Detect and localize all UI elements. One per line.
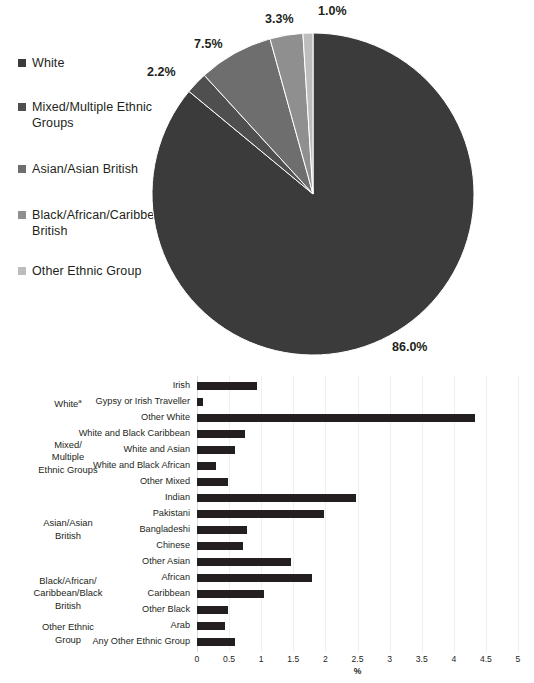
- legend-swatch-asian: [18, 165, 26, 173]
- x-tick-label: 0.5: [223, 654, 235, 664]
- pie-graphic: [152, 33, 474, 355]
- legend-item-white: White: [18, 55, 153, 71]
- x-tick-label: 0: [195, 654, 200, 664]
- bar-fill: [197, 510, 324, 518]
- bar-category-label: Indian: [4, 490, 196, 505]
- legend-label-other: Other Ethnic Group: [32, 263, 142, 279]
- bar-fill: [197, 382, 257, 390]
- legend-label-mixed: Mixed/Multiple Ethnic Groups: [32, 99, 153, 131]
- x-tick-label: 2: [323, 654, 328, 664]
- bar-row: Other Asian: [0, 554, 534, 569]
- bar-row: Indian: [0, 490, 534, 505]
- x-tick-label: 2.5: [352, 654, 364, 664]
- x-tick-label: 3: [387, 654, 392, 664]
- bar-fill: [197, 494, 356, 502]
- pie-legend: White Mixed/Multiple Ethnic Groups Asian…: [18, 55, 153, 307]
- bar-fill: [197, 478, 228, 486]
- x-tick-label: 4: [451, 654, 456, 664]
- pie-value-label-other: 1.0%: [318, 4, 347, 18]
- legend-item-black: Black/African/Caribbean/Black British: [18, 207, 153, 239]
- pie-value-label-white: 86.0%: [392, 340, 427, 354]
- x-tick-label: 4.5: [480, 654, 492, 664]
- pie-value-label-asian: 7.5%: [194, 37, 223, 51]
- bar-category-label: Other White: [4, 410, 196, 425]
- legend-item-mixed: Mixed/Multiple Ethnic Groups: [18, 99, 153, 131]
- bar-fill: [197, 398, 203, 406]
- bar-fill: [197, 542, 243, 550]
- x-axis-ticks: 00.511.522.533.544.55: [0, 654, 534, 668]
- bar-group-label-line: Other Ethnic: [8, 621, 128, 634]
- bar-group-label: Other EthnicGroup: [8, 621, 128, 646]
- bar-fill: [197, 574, 312, 582]
- bar-group-label: Whitea: [8, 395, 128, 411]
- bar-category-label: Irish: [4, 378, 196, 393]
- bar-group-label-line: Group: [8, 634, 128, 647]
- legend-swatch-mixed: [18, 103, 26, 111]
- bar-group-label-line: British: [8, 530, 128, 543]
- bar-fill: [197, 446, 235, 454]
- legend-item-asian: Asian/Asian British: [18, 161, 153, 177]
- bar-category-label: Other Mixed: [4, 474, 196, 489]
- footnote-marker: a: [78, 398, 81, 404]
- bar-group-label-line: Asian/Asian: [8, 517, 128, 530]
- x-tick-label: 1: [259, 654, 264, 664]
- bar-fill: [197, 430, 245, 438]
- pie-slices: [152, 33, 474, 355]
- x-axis-title-text: %: [354, 666, 362, 676]
- bar-fill: [197, 526, 247, 534]
- bar-group-label-line: Ethnic Groups: [8, 464, 128, 477]
- bar-row: Irish: [0, 378, 534, 393]
- bar-group-label-line: Mixed/: [8, 439, 128, 452]
- bar-group-label: Mixed/MultipleEthnic Groups: [8, 439, 128, 477]
- bar-group-label: Asian/AsianBritish: [8, 517, 128, 542]
- bar-fill: [197, 414, 475, 422]
- bar-fill: [197, 622, 225, 630]
- pie-svg: [152, 33, 474, 355]
- bar-group-label: Black/African/Caribbean/BlackBritish: [8, 575, 128, 613]
- bar-fill: [197, 462, 216, 470]
- x-tick-label: 5: [516, 654, 521, 664]
- legend-swatch-black: [18, 211, 26, 219]
- legend-label-asian: Asian/Asian British: [32, 161, 138, 177]
- legend-swatch-other: [18, 267, 26, 275]
- bar-fill: [197, 606, 228, 614]
- bar-fill: [197, 590, 264, 598]
- legend-label-white: White: [32, 55, 64, 71]
- bar-fill: [197, 638, 235, 646]
- bar-chart-section: IrishGypsy or Irish TravellerOther White…: [0, 372, 534, 683]
- pie-chart-section: White Mixed/Multiple Ethnic Groups Asian…: [0, 0, 534, 372]
- x-tick-label: 1.5: [287, 654, 299, 664]
- pie-value-label-mixed: 2.2%: [147, 65, 176, 79]
- legend-item-other: Other Ethnic Group: [18, 263, 153, 279]
- bar-group-label-line: Caribbean/Black: [8, 587, 128, 600]
- x-tick-label: 3.5: [416, 654, 428, 664]
- bar-group-label-line: Black/African/: [8, 575, 128, 588]
- bar-category-label: Other Asian: [4, 554, 196, 569]
- bar-plot-area: IrishGypsy or Irish TravellerOther White…: [0, 372, 534, 683]
- bar-group-label-line: Multiple: [8, 451, 128, 464]
- legend-swatch-white: [18, 59, 26, 67]
- bar-group-label-line: British: [8, 600, 128, 613]
- bar-row: Other White: [0, 410, 534, 425]
- bar-group-label-line: Whitea: [8, 395, 128, 411]
- bar-fill: [197, 558, 291, 566]
- pie-value-label-black: 3.3%: [265, 12, 294, 26]
- bar-row: Other Mixed: [0, 474, 534, 489]
